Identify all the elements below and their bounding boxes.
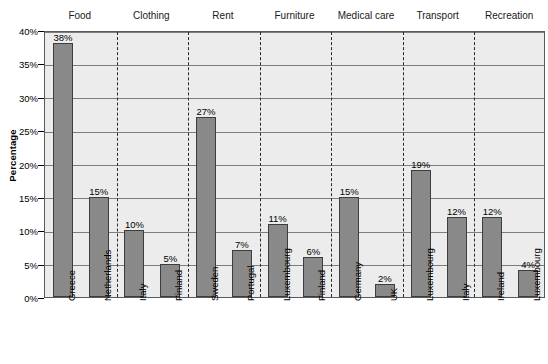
- group-header-furniture: Furniture: [259, 10, 331, 21]
- y-tick-label: 30%: [0, 92, 38, 103]
- x-label: Luxembourg: [531, 248, 542, 301]
- x-label: Greece: [66, 270, 77, 301]
- x-label: Ireland: [495, 272, 506, 301]
- group-header-medical-care: Medical care: [330, 10, 402, 21]
- gridline: [45, 65, 544, 66]
- plot-inner: 38%15%10%5%27%7%11%6%15%2%19%12%12%4%: [45, 32, 544, 297]
- group-header-transport: Transport: [402, 10, 474, 21]
- bar-value-label: 10%: [114, 219, 154, 230]
- group-header-food: Food: [44, 10, 116, 21]
- x-label: Luxembourg: [281, 248, 292, 301]
- gridline: [45, 265, 544, 266]
- gridline: [45, 232, 544, 233]
- group-divider: [188, 32, 189, 297]
- group-divider: [260, 32, 261, 297]
- bar-value-label: 38%: [43, 32, 83, 43]
- y-tick-label: 25%: [0, 126, 38, 137]
- y-tick-label: 35%: [0, 59, 38, 70]
- bar-value-label: 6%: [293, 246, 333, 257]
- bar-value-label: 15%: [329, 186, 369, 197]
- x-label: Luxembourg: [424, 248, 435, 301]
- bar-value-label: 27%: [186, 106, 226, 117]
- gridline: [45, 98, 544, 99]
- x-axis-category-labels: GreeceNetherlandsItalyFinlandSwedenPortu…: [44, 299, 545, 364]
- group-header-band: FoodClothingRentFurnitureMedical careTra…: [44, 10, 545, 28]
- group-header-clothing: Clothing: [116, 10, 188, 21]
- plot-area: 38%15%10%5%27%7%11%6%15%2%19%12%12%4%: [44, 31, 545, 298]
- group-divider: [117, 32, 118, 297]
- x-label: Netherlands: [102, 250, 113, 301]
- x-label: Sweden: [209, 267, 220, 301]
- x-label: Finland: [316, 270, 327, 301]
- x-label: Germany: [352, 262, 363, 301]
- gridline: [45, 198, 544, 199]
- bar-value-label: 19%: [401, 159, 441, 170]
- bar-value-label: 11%: [258, 213, 298, 224]
- group-header-recreation: Recreation: [473, 10, 545, 21]
- bar-chart: Percentage FoodClothingRentFurnitureMedi…: [0, 0, 548, 364]
- x-label: Italy: [460, 284, 471, 301]
- x-label: UK: [388, 288, 399, 301]
- group-divider: [331, 32, 332, 297]
- bar-value-label: 2%: [365, 273, 405, 284]
- gridline: [45, 132, 544, 133]
- bar-value-label: 7%: [222, 239, 262, 250]
- bar: [53, 43, 73, 297]
- y-tick-label: 10%: [0, 226, 38, 237]
- x-label: Finland: [173, 270, 184, 301]
- bar-value-label: 12%: [437, 206, 477, 217]
- group-header-rent: Rent: [187, 10, 259, 21]
- y-tick-label: 20%: [0, 159, 38, 170]
- x-label: Portugal: [245, 266, 256, 301]
- gridline: [45, 165, 544, 166]
- y-tick-label: 0%: [0, 293, 38, 304]
- y-tick-label: 40%: [0, 26, 38, 37]
- y-tick-label: 5%: [0, 259, 38, 270]
- bar-value-label: 15%: [79, 186, 119, 197]
- y-tick-label: 15%: [0, 192, 38, 203]
- group-divider: [474, 32, 475, 297]
- bar-value-label: 12%: [472, 206, 512, 217]
- x-label: Italy: [137, 284, 148, 301]
- group-divider: [403, 32, 404, 297]
- gridline: [45, 32, 544, 33]
- bar-value-label: 5%: [150, 253, 190, 264]
- bar-value-label: 4%: [508, 259, 548, 270]
